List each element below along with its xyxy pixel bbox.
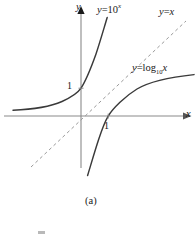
logarithm-function: log [143, 62, 156, 73]
graph-plot-area [0, 0, 195, 236]
exponential-base: 10 [108, 4, 119, 15]
x-axis-tick-label: 1 [104, 121, 109, 131]
curve-label-identity: y=x [159, 7, 174, 18]
y-axis-tick-label: 1 [67, 81, 72, 91]
page-edge-artifact [38, 231, 45, 234]
y-axis-label: y [76, 2, 81, 13]
curve-label-exponential: y=10x [97, 3, 121, 15]
figure-container: y=10x y=x y=log10x y x 1 1 (a) [0, 0, 195, 236]
identity-rhs: x [170, 6, 175, 17]
figure-caption: (a) [85, 196, 97, 207]
curve-label-logarithm: y=log10x [132, 63, 167, 76]
logarithm-argument: x [163, 62, 168, 73]
exponential-exponent: x [118, 2, 121, 10]
x-axis-label: x [186, 109, 191, 120]
exponential-curve [13, 18, 107, 111]
identity-line-dashed [31, 21, 186, 167]
